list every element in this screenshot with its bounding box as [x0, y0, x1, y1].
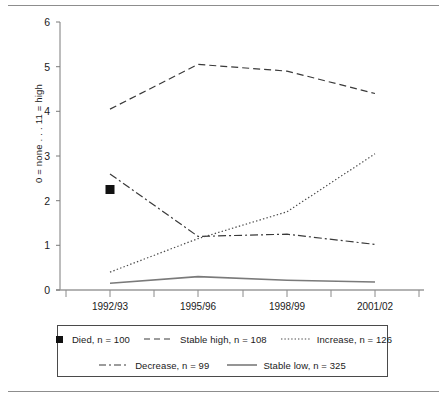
legend-label-died: Died, n = 100 — [72, 334, 130, 345]
legend-item-increase: Increase, n = 126 — [281, 334, 392, 345]
y-tick-label-5: 5 — [44, 61, 50, 73]
dashed-line-swatch-icon — [144, 334, 174, 344]
series-line-increase — [110, 154, 375, 272]
x-tick-label-0: 1992/93 — [92, 301, 129, 312]
line-chart-canvas: 6 5 4 3 2 1 0 1992/93 1995/96 1998/ — [0, 8, 447, 318]
legend-label-stable-low: Stable low, n = 325 — [263, 360, 345, 371]
legend-item-decrease: Decrease, n = 99 — [99, 360, 209, 371]
legend-row-1: Died, n = 100 Stable high, n = 108 Incre… — [58, 326, 387, 352]
x-tick-label-2: 1998/99 — [269, 301, 306, 312]
x-axis-ticks — [66, 290, 419, 297]
x-tick-label-1: 1995/96 — [180, 301, 217, 312]
legend-item-stable-low: Stable low, n = 325 — [227, 360, 345, 371]
series-line-decrease — [110, 174, 375, 245]
legend-label-increase: Increase, n = 126 — [317, 334, 392, 345]
series-marker-died — [106, 185, 115, 194]
solid-line-swatch-icon — [227, 360, 257, 370]
y-axis-ticks — [56, 22, 60, 290]
figure: 0 = none . . . 11 = high 6 5 4 3 2 1 — [0, 0, 447, 400]
legend-item-stable-high: Stable high, n = 108 — [144, 334, 267, 345]
dash-dot-line-swatch-icon — [99, 360, 129, 370]
legend-label-decrease: Decrease, n = 99 — [135, 360, 209, 371]
filled-square-marker-icon — [53, 334, 67, 344]
chart-legend: Died, n = 100 Stable high, n = 108 Incre… — [57, 325, 388, 377]
series-line-stable-low — [110, 277, 375, 284]
legend-label-stable-high: Stable high, n = 108 — [180, 334, 267, 345]
plot-area-wrapper: 0 = none . . . 11 = high 6 5 4 3 2 1 — [0, 8, 447, 318]
y-tick-label-0: 0 — [44, 284, 50, 296]
bottom-divider-rule — [8, 391, 439, 392]
y-tick-label-3: 3 — [44, 150, 50, 162]
y-tick-label-2: 2 — [44, 195, 50, 207]
series-line-stable-high — [110, 64, 375, 109]
x-tick-label-3: 2001/02 — [357, 301, 394, 312]
top-divider-rule — [8, 5, 439, 6]
legend-item-died: Died, n = 100 — [53, 334, 130, 345]
y-tick-label-6: 6 — [44, 16, 50, 28]
legend-row-2: Decrease, n = 99 Stable low, n = 325 — [58, 352, 387, 378]
y-axis-title: 0 = none . . . 11 = high — [33, 34, 44, 234]
dotted-line-swatch-icon — [281, 334, 311, 344]
y-tick-label-4: 4 — [44, 105, 50, 117]
y-tick-label-1: 1 — [44, 239, 50, 251]
